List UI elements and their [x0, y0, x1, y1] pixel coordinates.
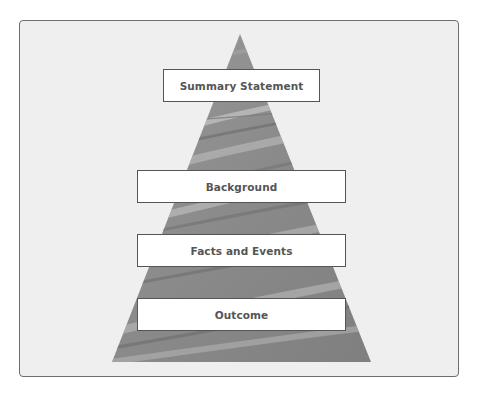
level-label: Outcome: [215, 309, 269, 321]
level-label: Facts and Events: [190, 245, 292, 257]
pyramid-level-outcome: Outcome: [137, 298, 346, 331]
level-label: Background: [206, 181, 278, 193]
pyramid-level-summary-statement: Summary Statement: [163, 69, 320, 102]
pyramid-level-facts-and-events: Facts and Events: [137, 234, 346, 267]
level-label: Summary Statement: [180, 80, 304, 92]
pyramid-level-background: Background: [137, 170, 346, 203]
